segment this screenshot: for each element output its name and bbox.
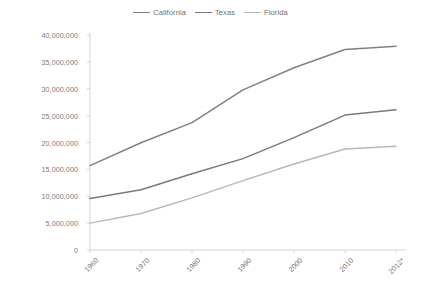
- x-tick-label: 2000: [253, 256, 305, 292]
- line-chart: California Texas Florida 40,000,00035,00…: [0, 0, 421, 292]
- x-tick-label: 1980: [151, 256, 203, 292]
- x-axis: 1960197019801990200020102012*: [0, 0, 421, 292]
- x-tick-label: 1990: [202, 256, 254, 292]
- x-tick-label: 2010: [304, 256, 356, 292]
- x-tick-label: 1970: [100, 256, 152, 292]
- x-tick-label: 1960: [49, 256, 101, 292]
- x-tick-label: 2012*: [355, 256, 407, 292]
